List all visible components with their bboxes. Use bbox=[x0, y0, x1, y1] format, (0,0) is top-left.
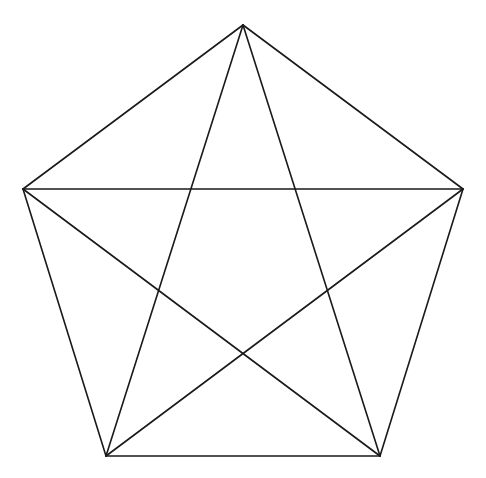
diagonal-top-to-bottom-right bbox=[243, 25, 380, 456]
edge-top-to-right bbox=[243, 25, 463, 189]
pentagram-star bbox=[23, 25, 463, 456]
diagonal-right-to-bottom-left bbox=[106, 189, 463, 456]
edge-right-to-bottom-right bbox=[380, 189, 463, 456]
pentagon-diagram bbox=[0, 0, 486, 478]
edge-left-to-top bbox=[23, 25, 243, 189]
diagonal-top-to-bottom-left bbox=[106, 25, 243, 456]
edge-bottom-left-to-left bbox=[23, 189, 106, 456]
diagonal-bottom-right-to-left bbox=[23, 189, 380, 456]
pentagon-outline bbox=[23, 25, 463, 456]
